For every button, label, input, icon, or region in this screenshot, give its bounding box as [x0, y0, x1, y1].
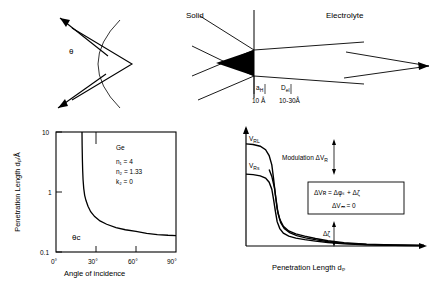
x-axis-label: Penetration Length dₚ: [272, 263, 345, 272]
d-el-value: 10-30Å: [279, 96, 301, 104]
solid-ray-bottom: [198, 76, 254, 100]
electrolyte-ray-top: [254, 42, 364, 50]
solid-label: Solid: [186, 11, 204, 20]
delta-zeta-label: Δζ: [323, 230, 330, 238]
ytick-label-01: 0.1: [40, 249, 49, 256]
xtick-label-0: 0°: [51, 258, 58, 265]
equation-line-1: ΔVʀ = Δφₛ + Δζ: [314, 189, 360, 197]
modulation-label: Modulation ΔVR: [282, 154, 328, 163]
electrolyte-label: Electrolyte: [326, 11, 364, 20]
x-axis-label: Angle of incidence: [64, 269, 125, 278]
theta-label: θ: [69, 47, 74, 56]
delta-zeta-arrow-top: [332, 221, 336, 227]
reflected-ray-arrowhead: [58, 99, 68, 108]
farfield-ray-bottom: [344, 66, 429, 78]
modulation-arrow-bottom: [332, 169, 336, 175]
angle-of-incidence-panel: θ: [36, 4, 186, 120]
critical-angle-label: θᴄ: [72, 233, 80, 242]
annotation-n2: n₂ = 1.33: [116, 168, 143, 175]
annotation-material: Ge: [116, 144, 125, 151]
mirror-corner: [72, 28, 132, 100]
annotation-k2: k₂ = 0: [116, 178, 133, 185]
angle-of-incidence-svg: θ: [36, 4, 186, 120]
farfield-arrowhead: [418, 62, 429, 70]
y-axis-label: Penetration Length dₚ/Å: [13, 152, 22, 232]
d-el-symbol: Del: [281, 84, 290, 93]
modulation-arrow-top: [332, 139, 336, 145]
solid-ray-top: [200, 16, 254, 50]
angle-arc: [98, 20, 120, 108]
xtick-label-60: 60°: [128, 258, 138, 265]
v-rs-label: VRs: [249, 162, 260, 171]
v-rl-label: VRL: [249, 135, 260, 144]
xtick-label-90: 90°: [167, 258, 177, 265]
annotation-n1: n₁ = 4: [116, 158, 133, 165]
modulation-chart-svg: VRL VRs Modulation ΔVR ΔVʀ = Δφₛ + Δζ ΔV…: [216, 124, 437, 287]
solid-electrolyte-svg: Solid Electrolyte aH Del 10 Å 10-30Å: [186, 2, 437, 122]
curve-lower-vrs: [246, 174, 424, 246]
y-axis-arrowhead: [243, 126, 249, 134]
xtick-label-30: 30°: [88, 258, 98, 265]
ytick-label-1: 1: [48, 189, 52, 196]
farfield-ray-top: [346, 52, 429, 66]
evanescent-field-wedge: [216, 50, 254, 76]
a-h-value: 10 Å: [252, 96, 266, 104]
modulation-chart-panel: VRL VRs Modulation ΔVR ΔVʀ = Δφₛ + Δζ ΔV…: [216, 124, 437, 287]
incoming-ray-arrowhead: [60, 18, 70, 27]
figure-root: θ Solid Electro: [0, 0, 437, 289]
solid-electrolyte-panel: Solid Electrolyte aH Del 10 Å 10-30Å: [186, 2, 437, 122]
a-h-symbol: aH: [256, 84, 264, 93]
ytick-label-10: 10: [42, 129, 50, 136]
equation-line-2: ΔVₘ = 0: [332, 202, 356, 209]
penetration-length-chart-svg: 10 1 0.1 0° 30° 60° 90° Angle of inciden…: [4, 124, 216, 287]
equation-box: [308, 182, 404, 214]
penetration-length-chart-panel: 10 1 0.1 0° 30° 60° 90° Angle of inciden…: [4, 124, 216, 287]
